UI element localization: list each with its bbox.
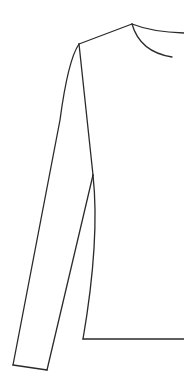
neckline-back <box>132 24 184 33</box>
sleeve-outer-edge <box>13 44 79 365</box>
sleeve-inner-edge <box>47 175 93 370</box>
garment-sketch <box>0 0 184 392</box>
neckline-front <box>132 24 172 57</box>
shoulder-line <box>79 24 132 44</box>
armhole-seam <box>79 44 93 175</box>
body-side-seam <box>83 175 95 339</box>
sleeve-cuff <box>13 365 47 370</box>
